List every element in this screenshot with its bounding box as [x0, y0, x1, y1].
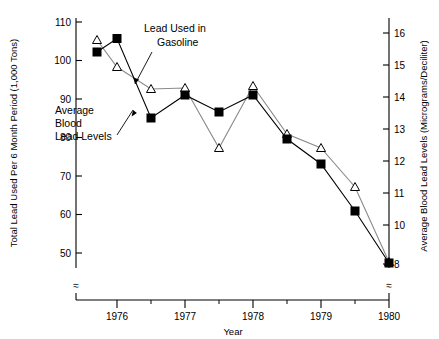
data-point-square-2	[147, 114, 155, 122]
x-tick-label-1977: 1977	[174, 311, 197, 322]
annotation-average-blood-lead-levels: Average Blood Lead Levels	[55, 104, 137, 142]
data-point-triangle-7	[317, 144, 326, 152]
x-axis: 1976 1977 1978 1979 1980 Year	[76, 300, 401, 337]
data-point-square-7	[317, 160, 325, 168]
annotation-lead-used-in-gasoline: Lead Used in Gasoline	[133, 22, 206, 84]
right-axis-title: Average Blood Lead Levels (Micrograms/De…	[418, 40, 429, 252]
x-axis-title: Year	[223, 326, 242, 337]
left-tick-label-110: 110	[55, 17, 71, 28]
right-axis: 16 15 14 13 12 11 10 8 ≈ Average Blood L…	[383, 18, 429, 300]
right-tick-label-16: 16	[394, 28, 406, 39]
annotation-blood-line3: Lead Levels	[55, 130, 112, 142]
annotation-gasoline-line2: Gasoline	[157, 36, 199, 48]
left-tick-label-50: 50	[60, 248, 72, 259]
data-point-triangle-1	[113, 63, 122, 71]
annotation-blood-line1: Average	[55, 104, 94, 116]
annotation-gasoline-line1: Lead Used in	[144, 22, 206, 34]
right-tick-label-12: 12	[394, 156, 406, 167]
data-point-square-6	[283, 135, 291, 143]
data-point-square-1	[113, 35, 121, 43]
data-point-square-8	[351, 207, 359, 215]
x-tick-label-1980: 1980	[378, 311, 401, 322]
data-point-square-4	[215, 108, 223, 116]
right-tick-label-10: 10	[394, 220, 406, 231]
right-tick-label-15: 15	[394, 60, 406, 71]
right-tick-label-14: 14	[394, 92, 406, 103]
data-point-square-3	[181, 91, 189, 99]
data-point-triangle-4	[215, 144, 224, 152]
lead-chart: 110 100 90 80 70 60 50 ≈ Total Lead Used…	[0, 0, 439, 339]
left-axis: 110 100 90 80 70 60 50 ≈ Total Lead Used…	[8, 17, 82, 301]
x-tick-label-1978: 1978	[242, 311, 265, 322]
right-tick-label-8: 8	[394, 259, 400, 270]
data-point-triangle-0	[93, 36, 102, 44]
chart-container: 110 100 90 80 70 60 50 ≈ Total Lead Used…	[0, 0, 439, 339]
series-total-lead-used	[93, 35, 393, 268]
data-point-square-0	[93, 48, 101, 56]
left-tick-label-100: 100	[54, 55, 71, 66]
x-tick-label-1979: 1979	[310, 311, 333, 322]
series-blood-lead-levels	[93, 36, 394, 266]
left-axis-title: Total Lead Used Per 6 Month Period (1,00…	[8, 39, 19, 247]
right-axis-break-icon: ≈	[386, 280, 392, 291]
data-point-triangle-5	[249, 82, 258, 90]
right-tick-label-13: 13	[394, 124, 406, 135]
left-tick-label-90: 90	[60, 94, 72, 105]
left-axis-break-icon: ≈	[73, 280, 79, 291]
data-point-square-5	[249, 91, 257, 99]
x-tick-label-1976: 1976	[106, 311, 129, 322]
right-tick-label-11: 11	[394, 188, 405, 199]
left-tick-label-70: 70	[60, 171, 72, 182]
annotation-blood-line2: Blood	[55, 117, 82, 129]
data-point-square-9	[385, 259, 393, 267]
annotation-blood-leader-line	[117, 110, 133, 135]
left-tick-label-60: 60	[60, 209, 72, 220]
data-point-triangle-3	[181, 84, 190, 92]
